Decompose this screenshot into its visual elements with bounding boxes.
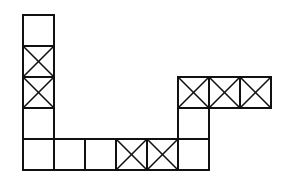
empty-cell	[85, 139, 116, 170]
crossed-cell	[147, 139, 178, 170]
empty-cell	[54, 139, 85, 170]
empty-cell	[23, 139, 54, 170]
crossed-cell	[116, 139, 147, 170]
empty-cell	[23, 15, 54, 46]
crossed-cell	[240, 77, 271, 108]
empty-cell	[23, 108, 54, 139]
crossed-cell	[23, 77, 54, 108]
crossed-cell	[209, 77, 240, 108]
crossed-cell	[178, 77, 209, 108]
grid-diagram	[0, 0, 287, 194]
crossed-cell	[23, 46, 54, 77]
empty-cell	[178, 108, 209, 139]
empty-cell	[178, 139, 209, 170]
